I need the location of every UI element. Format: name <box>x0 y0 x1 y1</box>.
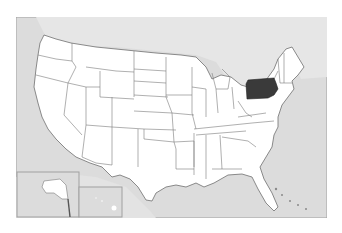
alaska-inset <box>17 172 79 217</box>
us-locator-map <box>16 17 327 218</box>
map-svg <box>16 17 327 218</box>
hawaii-inset <box>79 187 122 217</box>
hawaii-big-island <box>112 206 117 211</box>
